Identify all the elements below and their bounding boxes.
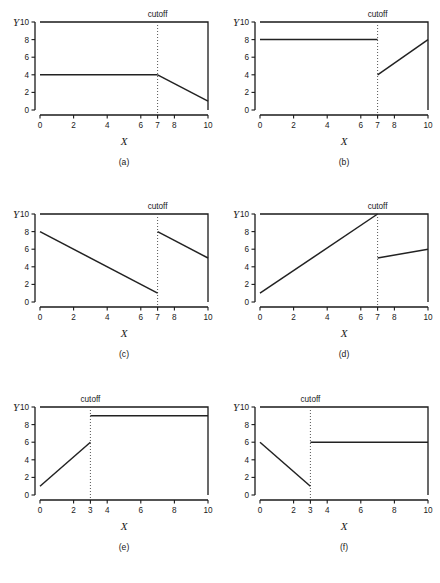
- y-tick-label-f: 10: [240, 403, 250, 412]
- x-tick-label-b: 7: [375, 121, 380, 130]
- panel-caption-a: (a): [119, 157, 130, 167]
- y-tick-label-d: 4: [244, 263, 249, 272]
- x-tick-label-a: 7: [155, 121, 160, 130]
- x-tick-label-f: 8: [392, 506, 397, 515]
- x-tick-label-d: 7: [375, 313, 380, 322]
- plot-frame-f: [260, 407, 428, 495]
- cutoff-label-f: cutoff: [300, 395, 321, 404]
- y-tick-label-b: 0: [244, 106, 249, 115]
- x-axis-title-d: X: [340, 327, 349, 339]
- x-tick-label-f: 6: [359, 506, 364, 515]
- y-tick-label-b: 4: [244, 71, 249, 80]
- x-axis-title-b: X: [340, 135, 349, 147]
- left-segment-c: [40, 232, 158, 294]
- panel-caption-d: (d): [339, 349, 350, 359]
- x-tick-label-e: 0: [38, 506, 43, 515]
- plot-area-e: cutoff024681002346810YX(e): [0, 385, 220, 579]
- x-tick-label-b: 8: [392, 121, 397, 130]
- panel-caption-c: (c): [119, 349, 129, 359]
- x-tick-label-c: 10: [203, 313, 213, 322]
- x-tick-label-f: 3: [308, 506, 313, 515]
- x-tick-label-f: 10: [423, 506, 433, 515]
- x-tick-label-e: 6: [139, 506, 144, 515]
- panel-c: cutoff024681002467810YX(c): [0, 192, 220, 386]
- y-tick-label-a: 0: [24, 106, 29, 115]
- y-tick-label-f: 8: [244, 421, 249, 430]
- x-tick-label-a: 2: [71, 121, 76, 130]
- x-tick-label-d: 8: [392, 313, 397, 322]
- plot-area-c: cutoff024681002467810YX(c): [0, 192, 220, 386]
- x-tick-label-b: 0: [258, 121, 263, 130]
- cutoff-label-a: cutoff: [148, 10, 169, 19]
- x-tick-label-a: 6: [139, 121, 144, 130]
- panel-caption-e: (e): [119, 542, 130, 552]
- x-tick-label-c: 4: [105, 313, 110, 322]
- y-tick-label-d: 10: [240, 210, 250, 219]
- figure-regression-discontinuity-panels: cutoff024681002467810YX(a)cutoff02468100…: [0, 0, 440, 583]
- x-tick-label-f: 0: [258, 506, 263, 515]
- y-tick-label-b: 8: [244, 36, 249, 45]
- cutoff-label-d: cutoff: [368, 202, 389, 211]
- left-segment-f: [260, 442, 310, 486]
- x-tick-label-e: 10: [203, 506, 213, 515]
- x-tick-label-b: 10: [423, 121, 433, 130]
- x-tick-label-a: 0: [38, 121, 43, 130]
- y-tick-label-e: 0: [24, 491, 29, 500]
- left-segment-d: [260, 214, 378, 293]
- x-tick-label-e: 3: [88, 506, 93, 515]
- y-tick-label-a: 4: [24, 71, 29, 80]
- right-segment-b: [378, 40, 428, 75]
- right-segment-c: [158, 232, 208, 258]
- x-tick-label-e: 8: [172, 506, 177, 515]
- y-tick-label-b: 10: [240, 18, 250, 27]
- cutoff-label-e: cutoff: [80, 395, 101, 404]
- panel-caption-f: (f): [340, 542, 348, 552]
- x-axis-title-a: X: [120, 135, 129, 147]
- panel-f: cutoff024681002346810YX(f): [220, 385, 440, 579]
- x-tick-label-a: 4: [105, 121, 110, 130]
- y-tick-label-d: 8: [244, 228, 249, 237]
- plot-frame-e: [40, 407, 208, 495]
- y-tick-label-d: 2: [244, 280, 249, 289]
- y-tick-label-d: 6: [244, 245, 249, 254]
- x-tick-label-b: 4: [325, 121, 330, 130]
- x-tick-label-b: 6: [359, 121, 364, 130]
- panel-caption-b: (b): [339, 157, 350, 167]
- right-segment-d: [378, 249, 428, 258]
- x-tick-label-d: 10: [423, 313, 433, 322]
- x-tick-label-c: 0: [38, 313, 43, 322]
- x-tick-label-b: 2: [291, 121, 296, 130]
- panel-d: cutoff024681002467810YX(d): [220, 192, 440, 386]
- y-tick-label-b: 6: [244, 53, 249, 62]
- x-tick-label-e: 4: [105, 506, 110, 515]
- x-axis-title-c: X: [120, 327, 129, 339]
- y-tick-label-b: 2: [244, 88, 249, 97]
- x-tick-label-c: 8: [172, 313, 177, 322]
- y-tick-label-e: 8: [24, 421, 29, 430]
- x-tick-label-c: 2: [71, 313, 76, 322]
- x-tick-label-f: 4: [325, 506, 330, 515]
- y-tick-label-a: 6: [24, 53, 29, 62]
- plot-area-a: cutoff024681002467810YX(a): [0, 0, 220, 194]
- y-tick-label-a: 8: [24, 36, 29, 45]
- y-tick-label-e: 10: [20, 403, 30, 412]
- plot-area-d: cutoff024681002467810YX(d): [220, 192, 440, 386]
- panel-a: cutoff024681002467810YX(a): [0, 0, 220, 194]
- cutoff-label-c: cutoff: [148, 202, 169, 211]
- x-tick-label-a: 10: [203, 121, 213, 130]
- x-axis-title-e: X: [120, 520, 129, 532]
- x-tick-label-f: 2: [291, 506, 296, 515]
- right-segment-a: [158, 75, 208, 101]
- x-tick-label-c: 7: [155, 313, 160, 322]
- y-tick-label-f: 2: [244, 473, 249, 482]
- y-tick-label-e: 2: [24, 473, 29, 482]
- x-tick-label-e: 2: [71, 506, 76, 515]
- y-tick-label-c: 0: [24, 298, 29, 307]
- cutoff-label-b: cutoff: [368, 10, 389, 19]
- y-tick-label-e: 6: [24, 438, 29, 447]
- x-tick-label-d: 6: [359, 313, 364, 322]
- y-tick-label-c: 4: [24, 263, 29, 272]
- y-tick-label-d: 0: [244, 298, 249, 307]
- y-tick-label-c: 8: [24, 228, 29, 237]
- plot-frame-a: [40, 22, 208, 110]
